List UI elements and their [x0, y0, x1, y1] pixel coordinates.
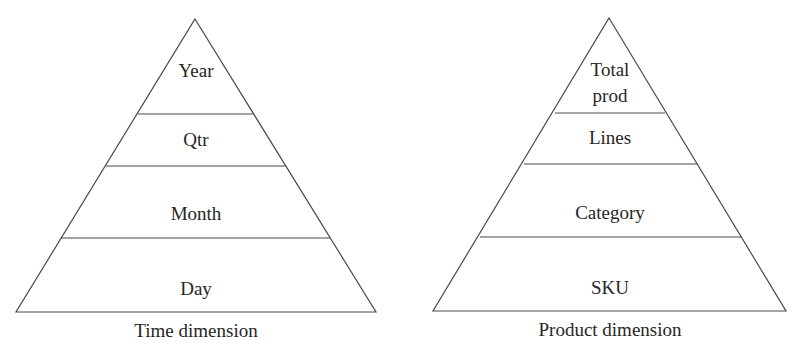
product-level-sku: SKU — [591, 277, 629, 298]
time-level-month: Month — [171, 203, 222, 224]
product-level-total-prod-line1: Total — [591, 59, 630, 80]
time-level-day: Day — [180, 278, 212, 299]
product-level-total-prod-line2: prod — [593, 85, 628, 106]
product-dimension-caption: Product dimension — [538, 319, 682, 340]
time-level-year: Year — [178, 60, 214, 81]
product-level-lines: Lines — [589, 127, 631, 148]
time-dimension-pyramid: Year Qtr Month Day Time dimension — [16, 19, 376, 341]
dimension-hierarchy-diagram: Year Qtr Month Day Time dimension Total … — [0, 0, 798, 356]
time-dimension-caption: Time dimension — [134, 320, 258, 341]
product-level-category: Category — [575, 202, 645, 223]
product-dimension-pyramid: Total prod Lines Category SKU Product di… — [433, 18, 786, 340]
time-level-qtr: Qtr — [183, 129, 209, 150]
